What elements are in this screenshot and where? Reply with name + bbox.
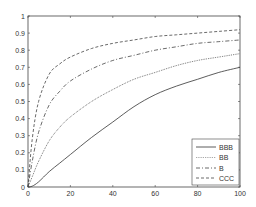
legend-label: CCC — [219, 175, 234, 182]
legend: BBB BB B CCC — [192, 139, 239, 185]
y-tick-label: 0.5 — [15, 98, 25, 105]
legend-label: BBB — [219, 144, 233, 151]
x-tick-label: 20 — [67, 190, 75, 197]
y-tick-label: 0.2 — [15, 149, 25, 156]
y-tick-label: 0.4 — [15, 115, 25, 122]
y-tick-label: 0.6 — [15, 81, 25, 88]
line-chart: 020406080100 00.10.20.30.40.50.60.70.80.… — [0, 0, 256, 207]
legend-label: BB — [219, 154, 229, 161]
x-tick-label: 60 — [151, 190, 159, 197]
legend-label: B — [219, 165, 224, 172]
x-tick-label: 0 — [26, 190, 30, 197]
y-tick-label: 0.8 — [15, 47, 25, 54]
x-tick-label: 100 — [234, 190, 246, 197]
x-tick-label: 40 — [109, 190, 117, 197]
y-tick-label: 0.9 — [15, 30, 25, 37]
y-tick-label: 0.1 — [15, 166, 25, 173]
y-tick-label: 0.7 — [15, 64, 25, 71]
y-tick-label: 1 — [21, 13, 25, 20]
y-tick-label: 0.3 — [15, 132, 25, 139]
x-tick-label: 80 — [194, 190, 202, 197]
y-tick-label: 0 — [21, 184, 25, 191]
